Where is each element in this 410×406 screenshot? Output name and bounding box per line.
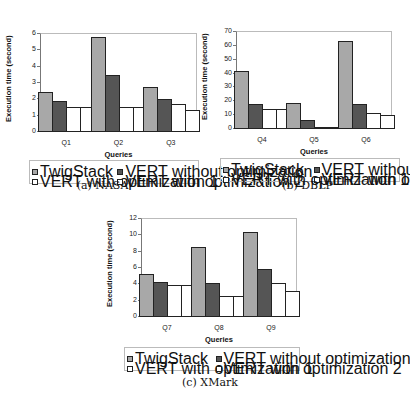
bar-q6-series-2 xyxy=(366,113,381,129)
y-tick-mark xyxy=(138,234,141,235)
x-tick-label: Q6 xyxy=(346,136,386,143)
y-tick-mark xyxy=(37,66,40,67)
y-tick-label: 0 xyxy=(121,312,137,320)
x-tick-label: Q8 xyxy=(199,324,239,331)
y-tick-label: 2 xyxy=(20,94,36,102)
y-tick-label: 1 xyxy=(20,111,36,119)
bar-q2-series-0 xyxy=(91,37,106,132)
y-tick-label: 0 xyxy=(216,124,232,132)
x-tick-label: Q4 xyxy=(242,136,282,143)
bar-q4-series-0 xyxy=(234,71,249,129)
bar-q6-series-1 xyxy=(352,104,367,129)
y-tick-mark xyxy=(37,82,40,83)
x-tick-label: Q1 xyxy=(46,139,86,146)
x-tick-label: Q9 xyxy=(251,324,291,331)
bar-q2-series-2 xyxy=(119,107,134,132)
bar-q1-series-0 xyxy=(38,92,53,132)
bar-q5-series-0 xyxy=(286,103,301,129)
bar-q3-series-3 xyxy=(185,110,200,132)
x-tick-label: Q3 xyxy=(151,139,191,146)
y-tick-label: 10 xyxy=(121,230,137,238)
bar-q6-series-3 xyxy=(380,115,395,129)
y-tick-mark xyxy=(37,33,40,34)
y-tick-label: 6 xyxy=(121,263,137,271)
y-axis-label: Execution time (second) xyxy=(4,35,13,122)
bar-q6-series-0 xyxy=(338,41,353,129)
bar-q4-series-2 xyxy=(262,109,277,129)
y-tick-label: 10 xyxy=(216,110,232,118)
y-tick-label: 4 xyxy=(20,62,36,70)
x-axis-label: Queries xyxy=(40,150,197,159)
bar-q1-series-2 xyxy=(66,107,81,132)
y-tick-mark xyxy=(138,218,141,219)
bar-q4-series-1 xyxy=(248,104,263,129)
y-tick-label: 2 xyxy=(121,296,137,304)
bar-q7-series-0 xyxy=(139,274,154,317)
x-axis-label: Queries xyxy=(141,335,297,344)
bar-q8-series-1 xyxy=(205,283,220,317)
bar-q9-series-2 xyxy=(271,283,286,317)
y-tick-label: 0 xyxy=(20,127,36,135)
y-tick-label: 60 xyxy=(216,41,232,49)
bar-q3-series-1 xyxy=(157,99,172,132)
y-tick-label: 5 xyxy=(20,45,36,53)
y-tick-mark xyxy=(233,59,236,60)
bar-q9-series-3 xyxy=(285,291,300,317)
y-tick-mark xyxy=(37,49,40,50)
y-tick-label: 40 xyxy=(216,69,232,77)
bar-q8-series-0 xyxy=(191,247,206,317)
y-tick-mark xyxy=(233,45,236,46)
legend-swatch-icon xyxy=(127,366,133,372)
bar-q3-series-0 xyxy=(143,87,158,132)
y-tick-mark xyxy=(138,251,141,252)
x-tick-label: Q7 xyxy=(147,324,187,331)
y-tick-label: 12 xyxy=(121,214,137,222)
y-tick-label: 4 xyxy=(121,279,137,287)
x-tick-label: Q2 xyxy=(99,139,139,146)
y-axis-label: Execution time (second) xyxy=(105,220,114,307)
chart-caption: (a) NASA xyxy=(0,179,205,192)
x-axis-label: Queries xyxy=(236,147,392,156)
y-tick-mark xyxy=(233,31,236,32)
y-axis-label: Execution time (second) xyxy=(200,33,209,120)
bar-q1-series-1 xyxy=(52,101,67,132)
y-tick-label: 6 xyxy=(20,29,36,37)
legend-swatch-icon xyxy=(216,366,222,372)
y-tick-label: 50 xyxy=(216,55,232,63)
y-tick-label: 20 xyxy=(216,96,232,104)
chart-caption: (c) XMark xyxy=(100,376,320,389)
bar-q5-series-2 xyxy=(314,127,329,129)
bar-q9-series-0 xyxy=(243,232,258,317)
bar-q9-series-1 xyxy=(257,269,272,317)
bar-q3-series-2 xyxy=(171,104,186,132)
bar-q7-series-1 xyxy=(153,282,168,317)
chart-caption: (b) DBLP xyxy=(205,179,410,192)
y-tick-label: 70 xyxy=(216,27,232,35)
bar-q7-series-2 xyxy=(167,285,182,317)
bar-q2-series-1 xyxy=(105,75,120,132)
y-tick-label: 30 xyxy=(216,82,232,90)
x-tick-label: Q5 xyxy=(294,136,334,143)
bar-q5-series-1 xyxy=(300,120,315,129)
bar-q8-series-2 xyxy=(219,296,234,317)
y-tick-label: 8 xyxy=(121,247,137,255)
y-tick-mark xyxy=(138,267,141,268)
y-tick-label: 3 xyxy=(20,78,36,86)
